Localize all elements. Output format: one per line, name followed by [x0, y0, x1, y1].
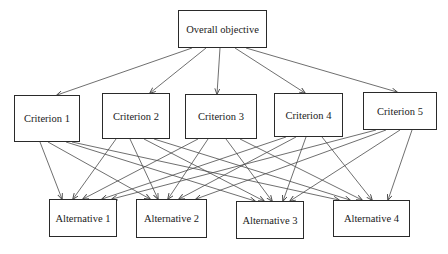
arrow-connector	[73, 139, 116, 199]
criterion-label: Criterion 5	[377, 106, 423, 117]
criterion-node-1: Criterion 1	[14, 95, 80, 142]
criterion-node-5: Criterion 5	[363, 92, 437, 130]
arrow-connector	[40, 142, 62, 199]
arrow-connector	[240, 139, 362, 200]
arrow-connector	[112, 130, 376, 199]
criterion-node-4: Criterion 4	[274, 93, 343, 137]
alternative-label: Alternative 4	[344, 213, 399, 224]
criterion-node-3: Criterion 3	[185, 94, 257, 139]
goal-node: Overall objective	[178, 10, 267, 48]
arrow-connector	[102, 137, 286, 199]
arrow-connector	[57, 48, 192, 95]
arrow-connector	[179, 137, 296, 199]
alternative-label: Alternative 3	[242, 215, 297, 226]
arrow-connector	[290, 130, 400, 201]
ahp-hierarchy-diagram: Overall objective Criterion 1 Criterion …	[0, 0, 448, 254]
arrow-connector	[150, 48, 206, 93]
criterion-label: Criterion 3	[198, 111, 244, 122]
alternative-label: Alternative 1	[55, 213, 110, 224]
criterion-label: Criterion 2	[113, 111, 159, 122]
criterion-label: Criterion 1	[24, 113, 70, 124]
alternative-node-1: Alternative 1	[49, 199, 117, 237]
alternative-node-4: Alternative 4	[333, 200, 410, 237]
arrow-connector	[66, 142, 255, 201]
arrow-connector	[322, 137, 372, 200]
alternative-node-3: Alternative 3	[236, 201, 304, 239]
criterion-node-2: Criterion 2	[102, 93, 170, 139]
arrow-connector	[388, 130, 412, 200]
alternative-node-2: Alternative 2	[136, 199, 207, 238]
alternative-label: Alternative 2	[144, 213, 199, 224]
goal-label: Overall objective	[186, 24, 259, 35]
arrow-connector	[283, 137, 306, 201]
arrow-connector	[196, 130, 386, 199]
criterion-label: Criterion 4	[286, 110, 332, 121]
arrow-connector	[217, 48, 220, 94]
arrow-connector	[144, 139, 264, 201]
